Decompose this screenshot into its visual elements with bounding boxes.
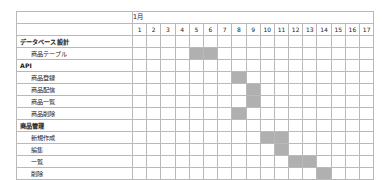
gantt-empty-cell[interactable]: [189, 36, 203, 48]
gantt-bar-cell[interactable]: [189, 48, 203, 60]
gantt-empty-cell[interactable]: [260, 48, 274, 60]
gantt-empty-cell[interactable]: [246, 120, 260, 132]
gantt-empty-cell[interactable]: [232, 120, 246, 132]
task-label[interactable]: 商品削除: [17, 108, 133, 120]
gantt-empty-cell[interactable]: [175, 132, 189, 144]
gantt-empty-cell[interactable]: [274, 48, 288, 60]
gantt-empty-cell[interactable]: [189, 120, 203, 132]
gantt-empty-cell[interactable]: [260, 96, 274, 108]
gantt-empty-cell[interactable]: [232, 144, 246, 156]
gantt-empty-cell[interactable]: [232, 48, 246, 60]
gantt-bar-cell[interactable]: [246, 96, 260, 108]
task-label[interactable]: 商品一覧: [17, 96, 133, 108]
gantt-bar-cell[interactable]: [274, 132, 288, 144]
gantt-empty-cell[interactable]: [331, 96, 345, 108]
gantt-empty-cell[interactable]: [303, 60, 317, 72]
gantt-empty-cell[interactable]: [232, 168, 246, 171]
gantt-empty-cell[interactable]: [317, 60, 331, 72]
gantt-empty-cell[interactable]: [303, 36, 317, 48]
gantt-empty-cell[interactable]: [260, 168, 274, 171]
gantt-empty-cell[interactable]: [133, 72, 147, 84]
gantt-empty-cell[interactable]: [175, 168, 189, 171]
task-label[interactable]: 商品配信: [17, 84, 133, 96]
gantt-empty-cell[interactable]: [331, 60, 345, 72]
gantt-empty-cell[interactable]: [246, 72, 260, 84]
gantt-empty-cell[interactable]: [147, 168, 161, 171]
gantt-empty-cell[interactable]: [203, 132, 217, 144]
gantt-empty-cell[interactable]: [317, 144, 331, 156]
gantt-bar-cell[interactable]: [246, 84, 260, 96]
gantt-empty-cell[interactable]: [331, 36, 345, 48]
gantt-empty-cell[interactable]: [189, 72, 203, 84]
gantt-empty-cell[interactable]: [345, 156, 359, 168]
task-label[interactable]: 商品登録: [17, 72, 133, 84]
gantt-empty-cell[interactable]: [218, 60, 232, 72]
gantt-empty-cell[interactable]: [260, 72, 274, 84]
gantt-empty-cell[interactable]: [303, 72, 317, 84]
gantt-empty-cell[interactable]: [246, 168, 260, 171]
gantt-empty-cell[interactable]: [317, 108, 331, 120]
gantt-empty-cell[interactable]: [203, 72, 217, 84]
gantt-empty-cell[interactable]: [303, 108, 317, 120]
gantt-empty-cell[interactable]: [289, 132, 303, 144]
gantt-empty-cell[interactable]: [133, 144, 147, 156]
gantt-empty-cell[interactable]: [147, 132, 161, 144]
gantt-empty-cell[interactable]: [218, 72, 232, 84]
gantt-empty-cell[interactable]: [147, 72, 161, 84]
gantt-empty-cell[interactable]: [147, 36, 161, 48]
gantt-empty-cell[interactable]: [246, 48, 260, 60]
gantt-empty-cell[interactable]: [232, 60, 246, 72]
gantt-empty-cell[interactable]: [246, 36, 260, 48]
task-label[interactable]: 商品テーブル: [17, 48, 133, 60]
gantt-empty-cell[interactable]: [175, 120, 189, 132]
gantt-empty-cell[interactable]: [175, 144, 189, 156]
gantt-empty-cell[interactable]: [246, 132, 260, 144]
gantt-empty-cell[interactable]: [218, 168, 232, 171]
gantt-empty-cell[interactable]: [161, 120, 175, 132]
gantt-empty-cell[interactable]: [203, 60, 217, 72]
gantt-empty-cell[interactable]: [303, 120, 317, 132]
gantt-empty-cell[interactable]: [289, 96, 303, 108]
gantt-empty-cell[interactable]: [147, 144, 161, 156]
gantt-bar-cell[interactable]: [203, 48, 217, 60]
gantt-empty-cell[interactable]: [360, 168, 374, 171]
gantt-empty-cell[interactable]: [133, 84, 147, 96]
gantt-empty-cell[interactable]: [345, 84, 359, 96]
gantt-empty-cell[interactable]: [317, 120, 331, 132]
gantt-empty-cell[interactable]: [147, 96, 161, 108]
gantt-empty-cell[interactable]: [331, 48, 345, 60]
gantt-empty-cell[interactable]: [147, 48, 161, 60]
gantt-empty-cell[interactable]: [232, 96, 246, 108]
task-label[interactable]: 編集: [17, 144, 133, 156]
gantt-empty-cell[interactable]: [189, 60, 203, 72]
gantt-empty-cell[interactable]: [147, 108, 161, 120]
gantt-empty-cell[interactable]: [133, 156, 147, 168]
gantt-empty-cell[interactable]: [303, 96, 317, 108]
gantt-empty-cell[interactable]: [331, 120, 345, 132]
gantt-bar-cell[interactable]: [303, 156, 317, 168]
gantt-empty-cell[interactable]: [175, 60, 189, 72]
gantt-empty-cell[interactable]: [161, 156, 175, 168]
gantt-empty-cell[interactable]: [289, 36, 303, 48]
gantt-empty-cell[interactable]: [133, 168, 147, 171]
gantt-empty-cell[interactable]: [331, 132, 345, 144]
gantt-bar-cell[interactable]: [232, 72, 246, 84]
gantt-empty-cell[interactable]: [161, 168, 175, 171]
gantt-empty-cell[interactable]: [345, 60, 359, 72]
gantt-empty-cell[interactable]: [303, 84, 317, 96]
gantt-empty-cell[interactable]: [161, 72, 175, 84]
gantt-empty-cell[interactable]: [232, 36, 246, 48]
gantt-empty-cell[interactable]: [274, 60, 288, 72]
gantt-empty-cell[interactable]: [203, 120, 217, 132]
gantt-empty-cell[interactable]: [175, 108, 189, 120]
gantt-empty-cell[interactable]: [360, 156, 374, 168]
gantt-bar-cell[interactable]: [317, 168, 331, 171]
gantt-bar-cell[interactable]: [232, 108, 246, 120]
gantt-empty-cell[interactable]: [218, 48, 232, 60]
gantt-empty-cell[interactable]: [133, 48, 147, 60]
gantt-empty-cell[interactable]: [360, 108, 374, 120]
gantt-empty-cell[interactable]: [218, 120, 232, 132]
gantt-empty-cell[interactable]: [147, 60, 161, 72]
gantt-empty-cell[interactable]: [203, 156, 217, 168]
gantt-empty-cell[interactable]: [345, 48, 359, 60]
